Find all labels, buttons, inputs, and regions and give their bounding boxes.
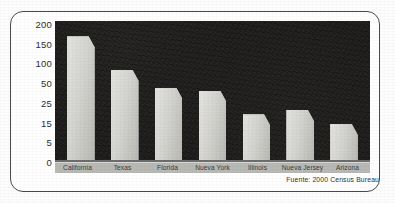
- category-label: Texas: [100, 164, 145, 171]
- bar-slot: $19,7: [278, 21, 322, 160]
- category-label: Illinois: [235, 164, 280, 171]
- bar-value-label: $74: [116, 56, 133, 68]
- bar-slot: $13,1: [322, 21, 366, 160]
- y-tick-label: 0: [47, 158, 52, 167]
- bar-series: $135 $74 $44,1 $42,8 $18,8: [55, 21, 370, 160]
- y-tick-label: 50: [41, 79, 52, 88]
- bar-value-label: $44,1: [156, 74, 182, 86]
- bar-slot: $135: [59, 21, 103, 160]
- y-tick-label: 200: [36, 20, 52, 29]
- bar-slot: $44,1: [147, 21, 191, 160]
- bar[interactable]: $19,7: [286, 110, 314, 160]
- bar-value-label: $18,8: [243, 100, 269, 112]
- chart-page: 200 150 100 50 25 15 5 0 $135 $74 $44,1: [0, 0, 395, 203]
- bar-slot: $18,8: [234, 21, 278, 160]
- y-tick-label: 100: [36, 59, 52, 68]
- bar-value-label: $42,8: [200, 77, 226, 89]
- bar-slot: $74: [103, 21, 147, 160]
- bar[interactable]: $13,1: [330, 124, 358, 160]
- category-label: California: [55, 164, 100, 171]
- bar[interactable]: $18,8: [243, 114, 271, 160]
- plot-area: $135 $74 $44,1 $42,8 $18,8: [55, 21, 370, 160]
- category-label: Nueva Jersey: [280, 164, 325, 171]
- x-axis-labels: California Texas Florida Nueva York Illi…: [55, 162, 370, 173]
- bar[interactable]: $42,8: [199, 91, 227, 161]
- y-tick-label: 15: [41, 119, 52, 128]
- bar-value-label: $19,7: [287, 96, 313, 108]
- source-note: Fuente: 2000 Census Bureau: [286, 176, 379, 183]
- bar-slot: $42,8: [191, 21, 235, 160]
- category-label: Nueva York: [190, 164, 235, 171]
- bar-value-label: $135: [69, 22, 92, 34]
- bar[interactable]: $135: [67, 36, 95, 160]
- y-axis: 200 150 100 50 25 15 5 0: [18, 20, 52, 167]
- y-tick-label: 25: [41, 99, 52, 108]
- bar[interactable]: $74: [111, 70, 139, 160]
- y-tick-label: 5: [47, 138, 52, 147]
- category-label: Arizona: [325, 164, 370, 171]
- bar-value-label: $13,1: [331, 110, 357, 122]
- bar[interactable]: $44,1: [155, 88, 183, 160]
- y-tick-label: 150: [36, 40, 52, 49]
- category-label: Florida: [145, 164, 190, 171]
